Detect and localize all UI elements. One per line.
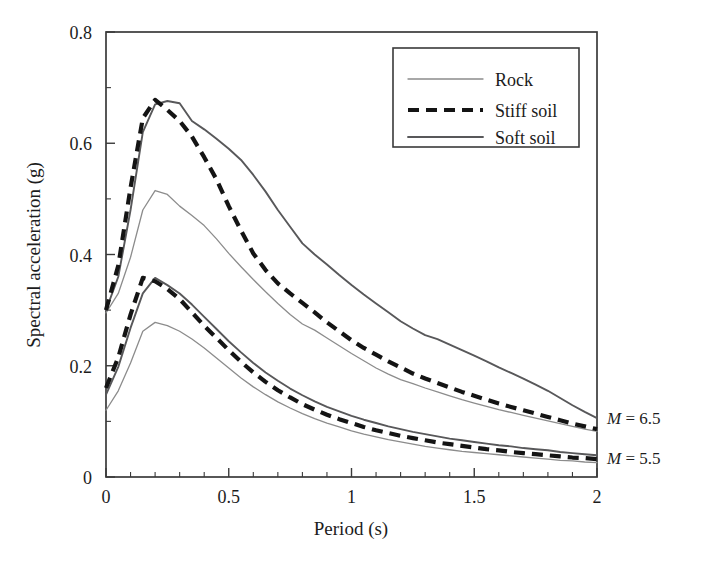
y-tick-label: 0.6 — [70, 134, 93, 154]
series-line-stiff-soil-m-5-5 — [106, 278, 597, 459]
annotation-m-6-5: M = 6.5 — [606, 409, 661, 428]
legend-label-stiff-soil: Stiff soil — [495, 101, 557, 121]
annotation-m-5-5-symbol: M — [606, 449, 622, 468]
y-tick-label: 0.2 — [70, 357, 93, 377]
series-line-stiff-soil-m-6-5 — [106, 100, 597, 429]
annotation-m-6-5-symbol: M — [606, 409, 622, 428]
series-line-soft-soil-m-6-5 — [106, 101, 597, 418]
x-tick-label: 0 — [102, 487, 111, 507]
spectral-acceleration-chart: 00.511.52 00.20.40.60.8 Period (s) Spect… — [0, 0, 705, 570]
y-axis-title: Spectral acceleration (g) — [23, 162, 45, 348]
data-series-layer — [106, 100, 597, 463]
x-tick-label: 1.5 — [463, 487, 486, 507]
x-axis-tick-labels: 00.511.52 — [102, 487, 602, 507]
x-axis-title: Period (s) — [314, 518, 388, 540]
y-axis-tick-labels: 00.20.40.60.8 — [70, 23, 93, 488]
x-tick-label: 1 — [347, 487, 356, 507]
series-line-rock-m-5-5 — [106, 322, 597, 462]
legend-label-rock: Rock — [495, 70, 533, 90]
legend-label-soft-soil: Soft soil — [495, 128, 556, 148]
annotation-m-6-5-value: = 6.5 — [621, 409, 660, 428]
annotation-m-5-5: M = 5.5 — [606, 449, 661, 468]
legend: Rock Stiff soil Soft soil — [393, 48, 579, 148]
x-axis-ticks — [106, 468, 597, 477]
y-axis-ticks — [106, 32, 115, 477]
series-line-soft-soil-m-5-5 — [106, 278, 597, 455]
annotation-m-5-5-value: = 5.5 — [621, 449, 660, 468]
x-tick-label: 2 — [593, 487, 602, 507]
y-tick-label: 0.8 — [70, 23, 93, 43]
svg-text:M = 6.5: M = 6.5 — [606, 409, 661, 428]
svg-text:M = 5.5: M = 5.5 — [606, 449, 661, 468]
y-tick-label: 0.4 — [70, 246, 93, 266]
y-tick-label: 0 — [83, 468, 92, 488]
x-tick-label: 0.5 — [218, 487, 241, 507]
series-line-rock-m-6-5 — [106, 191, 597, 432]
